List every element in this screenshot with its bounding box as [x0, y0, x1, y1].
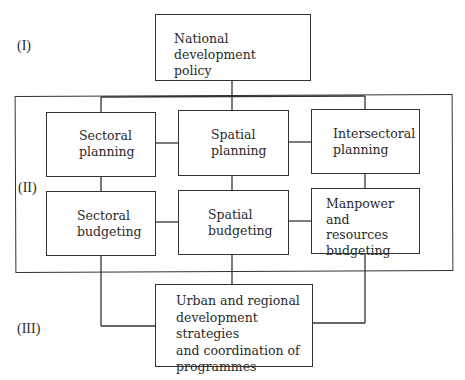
level-label-ii: (II) [18, 180, 37, 196]
intersectoral-planning-box: Intersectoral planning [311, 109, 420, 174]
level-label-iii: (III) [17, 321, 40, 337]
sectoral-budgeting-box: Sectoral budgeting [46, 191, 156, 256]
sectoral-budgeting-label: Sectoral budgeting [77, 208, 142, 240]
manpower-resources-budgeting-label: Manpower and resources budgeting [326, 196, 419, 258]
spatial-planning-label: Spatial planning [211, 127, 267, 159]
spatial-budgeting-label: Spatial budgeting [208, 207, 273, 239]
national-development-policy-box: National development policy [155, 14, 311, 81]
sectoral-planning-box: Sectoral planning [46, 112, 156, 177]
national-development-policy-label: National development policy [174, 31, 310, 79]
urban-regional-strategies-label: Urban and regional development strategie… [176, 293, 312, 376]
level-label-i: (I) [17, 38, 31, 54]
spatial-budgeting-box: Spatial budgeting [178, 190, 289, 255]
urban-regional-strategies-box: Urban and regional development strategie… [155, 284, 313, 367]
manpower-resources-budgeting-box: Manpower and resources budgeting [311, 188, 420, 254]
spatial-planning-box: Spatial planning [178, 110, 289, 176]
sectoral-planning-label: Sectoral planning [79, 128, 135, 160]
intersectoral-planning-label: Intersectoral planning [333, 126, 415, 158]
